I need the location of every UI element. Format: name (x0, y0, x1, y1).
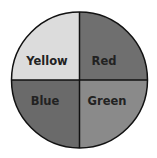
label-blue: Blue (31, 94, 60, 108)
slice-yellow (12, 12, 80, 80)
slice-red (80, 12, 148, 80)
label-red: Red (92, 54, 117, 68)
pie-chart: Yellow Red Blue Green (0, 0, 157, 158)
label-green: Green (88, 94, 127, 108)
label-yellow: Yellow (25, 54, 68, 68)
slice-green (80, 80, 148, 148)
slice-blue (12, 80, 80, 148)
